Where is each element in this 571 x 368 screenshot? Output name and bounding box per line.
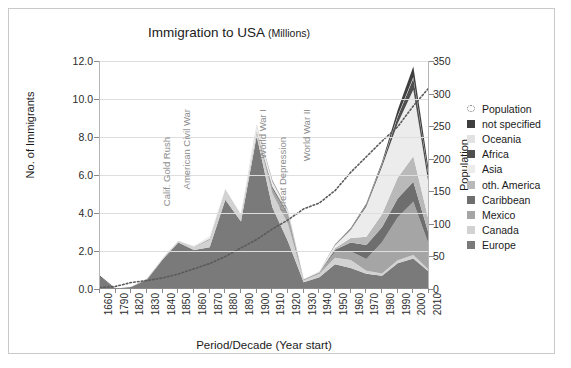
chart-annotation: World War I — [257, 109, 268, 159]
gridline — [100, 251, 428, 252]
x-axis-tick-mark — [162, 289, 163, 293]
x-axis-tick-mark — [256, 289, 257, 293]
gridline — [100, 99, 428, 100]
y-axis-left-tick: 0.0 — [78, 283, 93, 295]
legend-swatch-icon — [467, 105, 475, 112]
x-axis-tick: 1870 — [213, 293, 224, 315]
legend-swatch-icon — [467, 211, 475, 219]
y-axis-right-tick-mark — [429, 224, 434, 225]
x-axis-tick: 1790 — [119, 293, 130, 315]
legend-item-label: not specified — [482, 118, 541, 130]
x-axis-tick-mark — [99, 289, 100, 293]
y-axis-right-tick-mark — [429, 289, 434, 290]
y-axis-right-tick: 350 — [433, 55, 451, 67]
x-axis-tick: 1850 — [181, 293, 192, 315]
legend-item-label: Population — [482, 103, 532, 115]
legend-item-label: Caribbean — [482, 194, 530, 206]
legend-swatch-icon — [467, 150, 475, 158]
x-axis-label: Period/Decade (Year start) — [99, 339, 429, 351]
y-axis-right-tick: 200 — [433, 153, 451, 165]
legend-swatch-icon — [467, 165, 475, 173]
legend-swatch-icon — [467, 241, 475, 249]
plot-area — [99, 61, 429, 289]
legend-swatch-icon — [467, 181, 475, 189]
y-axis-left-tick: 4.0 — [78, 207, 93, 219]
x-axis-tick: 1830 — [150, 293, 161, 315]
x-axis-tick: 1900 — [260, 293, 271, 315]
x-axis-tick: 1660 — [103, 293, 114, 315]
chart-annotation: Great Depression — [277, 137, 288, 211]
x-axis-tick-mark — [303, 289, 304, 293]
x-axis-tick-mark — [334, 289, 335, 293]
y-axis-left-tick-mark — [94, 251, 99, 252]
y-axis-right-tick-mark — [429, 61, 434, 62]
legend-item[interactable]: Oceania — [467, 131, 563, 146]
x-axis-tick-mark — [224, 289, 225, 293]
x-axis-tick-mark — [130, 289, 131, 293]
chart-annotation: World War II — [301, 109, 312, 161]
x-axis-tick-mark — [271, 289, 272, 293]
y-axis-right-tick: 300 — [433, 88, 451, 100]
legend-swatch-icon — [467, 226, 475, 234]
x-axis-tick-mark — [412, 289, 413, 293]
x-axis-tick-mark — [240, 289, 241, 293]
x-axis-tick-mark — [193, 289, 194, 293]
legend-item[interactable]: Europe — [467, 238, 563, 253]
y-axis-left-tick-mark — [94, 99, 99, 100]
legend-item[interactable]: Mexico — [467, 207, 563, 222]
chart-frame: Immigration to USA (Millions) 0.02.04.06… — [8, 8, 555, 354]
x-axis-tick: 1920 — [291, 293, 302, 315]
x-axis-tick: 1970 — [369, 293, 380, 315]
chart-annotation: Calif. Gold Rush — [161, 137, 172, 206]
legend-item[interactable]: not specified — [467, 116, 563, 131]
x-axis-ticks: 1660179018201830184018501860187018801890… — [99, 293, 429, 337]
gridline — [100, 175, 428, 176]
x-axis-tick-mark — [209, 289, 210, 293]
legend-item-label: Mexico — [482, 209, 515, 221]
x-axis-tick: 1880 — [228, 293, 239, 315]
y-axis-right-tick: 150 — [433, 185, 451, 197]
x-axis-tick: 1840 — [166, 293, 177, 315]
y-axis-left-tick: 8.0 — [78, 131, 93, 143]
legend-item-label: Europe — [482, 239, 516, 251]
y-axis-left-tick-mark — [94, 61, 99, 62]
chart-legend: Populationnot specifiedOceaniaAfricaAsia… — [467, 101, 563, 253]
x-axis-tick: 1860 — [197, 293, 208, 315]
legend-item[interactable]: Canada — [467, 223, 563, 238]
legend-item[interactable]: oth. America — [467, 177, 563, 192]
x-axis-tick-mark — [428, 289, 429, 293]
legend-swatch-icon — [467, 120, 475, 128]
x-axis-tick: 1890 — [244, 293, 255, 315]
y-axis-left-tick-mark — [94, 137, 99, 138]
x-axis-tick-mark — [287, 289, 288, 293]
y-axis-right-tick-mark — [429, 126, 434, 127]
x-axis-tick: 1820 — [134, 293, 145, 315]
x-axis-tick-mark — [365, 289, 366, 293]
x-axis-tick-mark — [146, 289, 147, 293]
legend-item[interactable]: Caribbean — [467, 192, 563, 207]
legend-item[interactable]: Asia — [467, 162, 563, 177]
y-axis-left-tick: 2.0 — [78, 245, 93, 257]
chart-title-text: Immigration to USA — [148, 25, 264, 40]
x-axis-tick: 1930 — [307, 293, 318, 315]
y-axis-left-tick: 6.0 — [78, 169, 93, 181]
x-axis-tick-mark — [177, 289, 178, 293]
y-axis-left-tick-mark — [94, 213, 99, 214]
legend-item[interactable]: Africa — [467, 147, 563, 162]
y-axis-right-tick: 50 — [433, 250, 445, 262]
y-axis-left-tick-mark — [94, 175, 99, 176]
y-axis-right-tick: 100 — [433, 218, 451, 230]
y-axis-right-tick: 250 — [433, 120, 451, 132]
legend-swatch-icon — [467, 196, 475, 204]
y-axis-right-tick-mark — [429, 256, 434, 257]
y-axis-right-tick-mark — [429, 191, 434, 192]
legend-item[interactable]: Population — [467, 101, 563, 116]
x-axis-tick-mark — [397, 289, 398, 293]
x-axis-tick-mark — [115, 289, 116, 293]
x-axis-tick: 1910 — [275, 293, 286, 315]
legend-item-label: Canada — [482, 224, 519, 236]
x-axis-tick-mark — [318, 289, 319, 293]
y-axis-left: 0.02.04.06.08.010.012.0 — [49, 61, 93, 289]
x-axis-tick: 1980 — [385, 293, 396, 315]
x-axis-tick: 1950 — [338, 293, 349, 315]
